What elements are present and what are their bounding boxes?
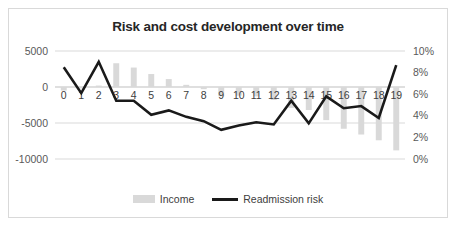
bar-income[interactable] bbox=[113, 63, 119, 87]
right-axis-tick-label: 0% bbox=[413, 153, 428, 165]
category-axis-tick-label: 8 bbox=[201, 89, 207, 101]
category-axis-tick-label: 4 bbox=[131, 89, 137, 101]
bar-income[interactable] bbox=[148, 74, 154, 87]
category-axis-tick-label: 10 bbox=[233, 89, 245, 101]
category-axis-tick-label: 16 bbox=[338, 89, 350, 101]
category-axis-tick-label: 0 bbox=[61, 89, 67, 101]
right-axis-tick-label: 6% bbox=[413, 88, 428, 100]
legend-entry-readmission-risk[interactable]: Readmission risk bbox=[212, 193, 323, 205]
category-axis-tick-label: 5 bbox=[148, 89, 154, 101]
legend-entry-income[interactable]: Income bbox=[133, 193, 194, 205]
legend-line-swatch-icon bbox=[212, 198, 238, 201]
bar-income[interactable] bbox=[131, 68, 137, 87]
left-axis-tick-label: 5000 bbox=[25, 45, 49, 57]
left-axis-tick-label: -10000 bbox=[15, 153, 48, 165]
legend-label-readmission-risk: Readmission risk bbox=[243, 193, 323, 205]
bar-income[interactable] bbox=[183, 85, 189, 87]
left-axis-tick-label: -5000 bbox=[21, 117, 48, 129]
right-axis-tick-label: 8% bbox=[413, 66, 428, 78]
category-axis-tick-label: 9 bbox=[218, 89, 224, 101]
bar-income[interactable] bbox=[166, 79, 172, 87]
left-axis-tick-label: 0 bbox=[42, 81, 48, 93]
category-axis-tick-label: 6 bbox=[166, 89, 172, 101]
category-axis-tick-label: 17 bbox=[355, 89, 367, 101]
category-axis-tick-label: 7 bbox=[183, 89, 189, 101]
chart-container: Risk and cost development over time 5000… bbox=[8, 8, 448, 218]
category-axis-tick-label: 12 bbox=[268, 89, 280, 101]
right-axis-tick-label: 4% bbox=[413, 109, 428, 121]
chart-plot-area: 50000-5000-1000010%8%6%4%2%0%01234567891… bbox=[9, 9, 449, 219]
legend-bar-swatch-icon bbox=[133, 195, 155, 203]
right-axis-tick-label: 10% bbox=[413, 45, 434, 57]
category-axis-tick-label: 11 bbox=[251, 89, 262, 101]
category-axis-tick-label: 2 bbox=[96, 89, 102, 101]
category-axis-tick-label: 18 bbox=[373, 89, 385, 101]
legend-label-income: Income bbox=[160, 193, 194, 205]
right-axis-tick-label: 2% bbox=[413, 131, 428, 143]
bar-income[interactable] bbox=[96, 86, 102, 87]
category-axis-tick-label: 19 bbox=[390, 89, 402, 101]
chart-legend: Income Readmission risk bbox=[9, 193, 447, 205]
category-axis-tick-label: 14 bbox=[303, 89, 315, 101]
